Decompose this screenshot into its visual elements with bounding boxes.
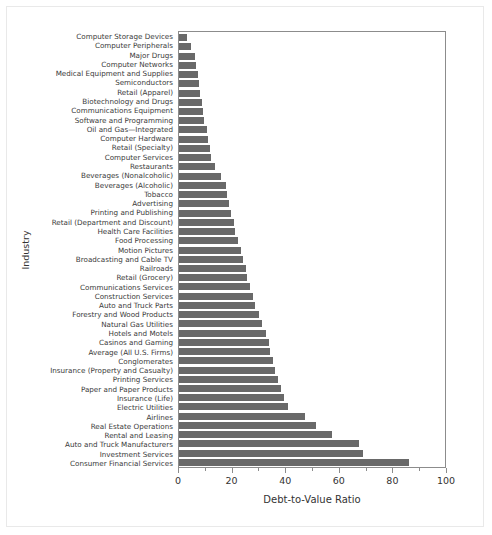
y-axis-tick-label: Retail (Apparel) xyxy=(21,88,176,97)
y-axis-tick-label-text: Retail (Specialty) xyxy=(112,144,173,151)
x-axis-major-tick xyxy=(339,468,340,473)
y-axis-tick-label: Major Drugs xyxy=(21,51,176,60)
y-axis-tick-label-text: Airlines xyxy=(146,414,173,421)
y-axis-tick-label: Electric Utilities xyxy=(21,403,176,412)
y-axis-tick-label-text: Computer Peripherals xyxy=(95,42,173,49)
bar-row xyxy=(179,292,445,301)
bar xyxy=(179,376,278,383)
y-axis-tick-label-text: Beverages (Nonalcoholic) xyxy=(81,172,173,179)
bar-row xyxy=(179,347,445,356)
y-axis-tick-label: Communications Services xyxy=(21,283,176,292)
y-axis-tick-label: Natural Gas Utilities xyxy=(21,320,176,329)
bar-row xyxy=(179,375,445,384)
y-axis-tick-label: Airlines xyxy=(21,413,176,422)
bar-row xyxy=(179,356,445,365)
y-axis-tick-label-text: Railroads xyxy=(140,265,173,272)
y-axis-tick-label-text: Printing and Publishing xyxy=(91,209,173,216)
y-axis-tick-labels: Computer Storage DevicesComputer Periphe… xyxy=(21,31,176,468)
y-axis-tick-label: Paper and Paper Products xyxy=(21,385,176,394)
y-axis-tick-label: Semiconductors xyxy=(21,78,176,87)
bar xyxy=(179,450,363,457)
bar xyxy=(179,320,262,327)
bar-row xyxy=(179,236,445,245)
bar xyxy=(179,80,199,87)
y-axis-tick-label: Beverages (Nonalcoholic) xyxy=(21,171,176,180)
y-axis-tick-label-text: Advertising xyxy=(132,200,173,207)
y-axis-tick-label: Railroads xyxy=(21,264,176,273)
bar-series xyxy=(179,32,445,467)
y-axis-tick-label: Computer Storage Devices xyxy=(21,32,176,41)
bar xyxy=(179,99,202,106)
bar xyxy=(179,219,234,226)
bar xyxy=(179,182,226,189)
bar xyxy=(179,274,247,281)
x-axis-title: Debt-to-Value Ratio xyxy=(178,494,446,505)
bar xyxy=(179,302,255,309)
bar-row xyxy=(179,402,445,411)
bar-row xyxy=(179,33,445,42)
y-axis-tick-label-text: Hotels and Motels xyxy=(109,330,173,337)
y-axis-tick-label-text: Consumer Financial Services xyxy=(70,460,173,467)
bar-row xyxy=(179,310,445,319)
y-axis-tick-label-text: Retail (Grocery) xyxy=(116,274,173,281)
bar xyxy=(179,330,266,337)
bar-row xyxy=(179,88,445,97)
bar xyxy=(179,71,198,78)
bar-row xyxy=(179,273,445,282)
y-axis-tick-label: Health Care Facilities xyxy=(21,227,176,236)
bar-row xyxy=(179,190,445,199)
x-axis-tick-label: 100 xyxy=(437,475,455,486)
bar xyxy=(179,385,281,392)
x-axis-major-tick xyxy=(392,468,393,473)
bar xyxy=(179,154,211,161)
bar-row xyxy=(179,98,445,107)
bar-row xyxy=(179,458,445,467)
y-axis-tick-label-text: Casinos and Gaming xyxy=(99,339,173,346)
bar-row xyxy=(179,329,445,338)
y-axis-tick-label-text: Forestry and Wood Products xyxy=(72,311,173,318)
y-axis-tick-label: Software and Programming xyxy=(21,116,176,125)
bar xyxy=(179,90,200,97)
bar-row xyxy=(179,162,445,171)
x-axis-ticks xyxy=(178,468,446,474)
y-axis-tick-label-text: Rental and Leasing xyxy=(104,432,173,439)
bar xyxy=(179,422,316,429)
y-axis-tick-label-text: Computer Services xyxy=(105,154,173,161)
y-axis-tick-label-text: Tobacco xyxy=(144,191,173,198)
y-axis-tick-label: Forestry and Wood Products xyxy=(21,310,176,319)
bar xyxy=(179,431,332,438)
bar xyxy=(179,136,208,143)
bar-row xyxy=(179,61,445,70)
y-axis-tick-label: Computer Services xyxy=(21,153,176,162)
y-axis-tick-label-text: Major Drugs xyxy=(129,52,173,59)
bar xyxy=(179,191,227,198)
bar-row xyxy=(179,70,445,79)
bar xyxy=(179,173,221,180)
y-axis-tick-label-text: Construction Services xyxy=(95,293,173,300)
bar-row xyxy=(179,430,445,439)
bar-row xyxy=(179,264,445,273)
bar-row xyxy=(179,218,445,227)
y-axis-tick-label-text: Auto and Truck Manufacturers xyxy=(65,441,173,448)
bar xyxy=(179,145,210,152)
x-axis-tick-label: 80 xyxy=(386,475,398,486)
y-axis-tick-label: Advertising xyxy=(21,199,176,208)
bar xyxy=(179,108,203,115)
y-axis-tick-label: Broadcasting and Cable TV xyxy=(21,255,176,264)
x-axis-major-tick xyxy=(178,468,179,473)
y-axis-tick-label-text: Computer Storage Devices xyxy=(76,33,173,40)
plot-area xyxy=(178,31,446,468)
bar xyxy=(179,357,273,364)
y-axis-tick-label: Tobacco xyxy=(21,190,176,199)
bar xyxy=(179,126,207,133)
y-axis-tick-label-text: Printing Services xyxy=(113,376,173,383)
x-axis-tick-label: 40 xyxy=(279,475,291,486)
y-axis-tick-label-text: Insurance (Life) xyxy=(117,395,173,402)
bar-row xyxy=(179,42,445,51)
bar-row xyxy=(179,282,445,291)
x-axis-minor-tick xyxy=(312,468,313,471)
bar-row xyxy=(179,301,445,310)
bar xyxy=(179,403,288,410)
y-axis-tick-label-text: Insurance (Property and Casualty) xyxy=(50,367,173,374)
y-axis-tick-label: Food Processing xyxy=(21,236,176,245)
